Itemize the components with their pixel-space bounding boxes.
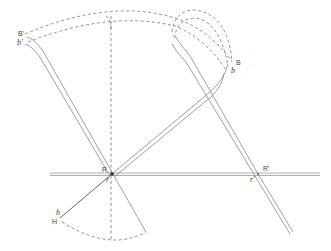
label-h: h bbox=[56, 209, 60, 217]
label-H: H bbox=[52, 218, 57, 225]
line-B-prime-to-R bbox=[25, 37, 146, 232]
label-R-prime: R' bbox=[263, 165, 269, 172]
label-r: r bbox=[106, 176, 109, 184]
label-R: R bbox=[102, 166, 107, 173]
center-point-R bbox=[110, 172, 114, 176]
label-b-prime: b' bbox=[17, 39, 23, 47]
label-B: B bbox=[236, 59, 241, 66]
point-R-prime bbox=[257, 173, 259, 175]
lower-dashed-arc bbox=[62, 222, 146, 240]
label-r-prime: r' bbox=[250, 176, 255, 184]
label-b: b bbox=[231, 67, 235, 75]
upper-dashed-arcs bbox=[25, 10, 232, 70]
label-B-prime: B' bbox=[18, 30, 24, 37]
geometric-diagram bbox=[0, 0, 331, 251]
horizontal-axis bbox=[50, 173, 320, 176]
line-H-to-B bbox=[60, 64, 228, 218]
